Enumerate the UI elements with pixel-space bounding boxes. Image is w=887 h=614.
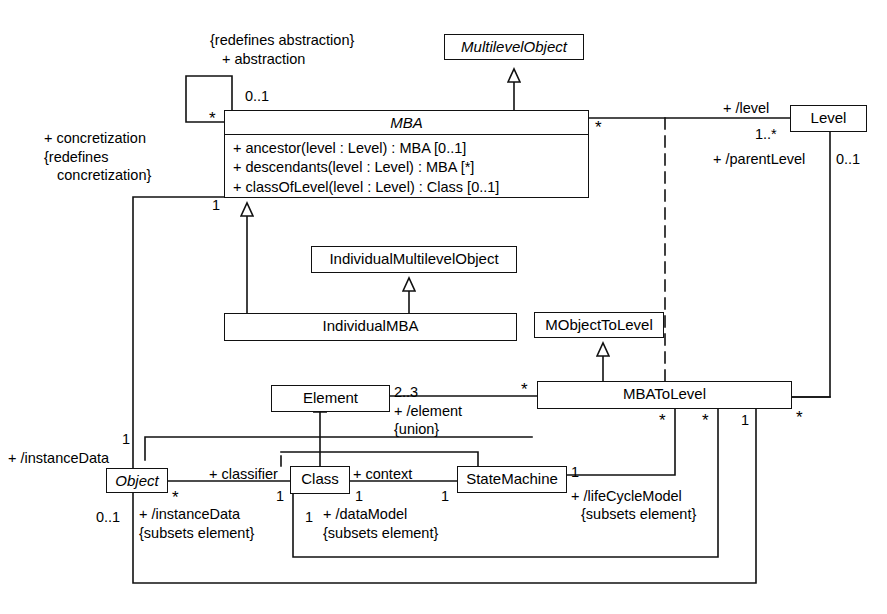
edge-label-instancedata-mult-top: 1 bbox=[122, 431, 130, 449]
class-box-mbatolevel[interactable]: MBAToLevel bbox=[537, 381, 792, 409]
edge-label-datamodel-mult: 1 bbox=[305, 509, 313, 527]
class-name-individualmultilevelobject: IndividualMultilevelObject bbox=[312, 247, 516, 270]
class-box-mba[interactable]: MBA + ancestor(level : Level) : MBA [0..… bbox=[224, 110, 589, 198]
edge-label-concretization-role: + concretization bbox=[44, 130, 146, 148]
edge-mba-object-instancedata bbox=[133, 197, 224, 468]
edge-level-parentlevel bbox=[792, 132, 830, 397]
edge-label-mbatolevel-left-star: * bbox=[521, 381, 528, 398]
operation-descendants: + descendants(level : Level) : MBA [*] bbox=[233, 158, 582, 177]
edge-label-lifecycle-role: + /lifeCycleModel bbox=[571, 488, 682, 506]
edge-label-classifier-mult-right: 1 bbox=[276, 488, 284, 506]
edge-label-element-mult: 2..3 bbox=[394, 384, 418, 402]
diagram-edges bbox=[0, 0, 887, 614]
edge-label-element-union: {union} bbox=[394, 421, 439, 439]
edge-label-context-role: + context bbox=[353, 466, 412, 484]
edge-object-top-route bbox=[145, 437, 532, 460]
class-box-individualmultilevelobject[interactable]: IndividualMultilevelObject bbox=[311, 246, 517, 273]
operation-ancestor: + ancestor(level : Level) : MBA [0..1] bbox=[233, 139, 582, 158]
edge-label-abstraction-mult: 0..1 bbox=[245, 88, 269, 106]
edge-label-classifier-role: + classifier bbox=[209, 466, 278, 484]
class-name-multilevelobject: MultilevelObject bbox=[445, 35, 583, 58]
edge-label-redefines-concret-1: {redefines bbox=[44, 149, 109, 167]
edge-label-instancedata-role-bot: + /instanceData bbox=[139, 506, 240, 524]
class-name-object: Object bbox=[107, 469, 167, 492]
edge-label-mbatolevel-drop-star2: * bbox=[702, 412, 709, 429]
edge-label-mbatolevel-drop-star1: * bbox=[659, 412, 666, 429]
edge-statemachine-top-route bbox=[281, 452, 478, 466]
class-box-level[interactable]: Level bbox=[790, 105, 867, 132]
edge-label-context-mult-left: 1 bbox=[355, 488, 363, 506]
edge-label-parentlevel-mult: 0..1 bbox=[836, 151, 860, 169]
edge-label-abstraction-role: + abstraction bbox=[222, 51, 305, 69]
class-name-statemachine: StateMachine bbox=[458, 467, 566, 490]
edge-label-redefines-abstraction: {redefines abstraction} bbox=[210, 32, 354, 50]
class-box-object[interactable]: Object bbox=[106, 468, 168, 493]
class-name-mobjecttolevel: MObjectToLevel bbox=[535, 313, 663, 336]
edge-label-level-mult: 1..* bbox=[755, 126, 777, 144]
uml-class-diagram: MultilevelObject MBA + ancestor(level : … bbox=[0, 0, 887, 614]
edge-label-selfassoc-star: * bbox=[209, 110, 216, 127]
edge-label-lifecycle-mult: 1 bbox=[571, 464, 579, 482]
edge-label-mba-bottom-mult: 1 bbox=[212, 197, 220, 215]
edge-label-instancedata-mult-bot: 0..1 bbox=[96, 509, 120, 527]
operation-classoflevel: + classOfLevel(level : Level) : Class [0… bbox=[233, 178, 582, 197]
edge-label-lifecycle-subsets: {subsets element} bbox=[581, 506, 696, 524]
class-name-element: Element bbox=[272, 386, 389, 409]
class-box-class[interactable]: Class bbox=[290, 466, 350, 494]
edge-label-context-mult-right: 1 bbox=[441, 488, 449, 506]
class-box-mobjecttolevel[interactable]: MObjectToLevel bbox=[534, 312, 664, 338]
edge-label-level-role: + /level bbox=[723, 100, 769, 118]
edge-label-mbatolevel-right-star: * bbox=[796, 409, 803, 426]
edge-label-element-role: + /element bbox=[394, 403, 462, 421]
class-name-level: Level bbox=[791, 106, 866, 129]
class-operations-mba: + ancestor(level : Level) : MBA [0..1] +… bbox=[225, 134, 588, 200]
class-name-mba: MBA bbox=[225, 111, 588, 134]
edge-label-datamodel-role: + /dataModel bbox=[323, 506, 407, 524]
class-box-individualmba[interactable]: IndividualMBA bbox=[224, 313, 517, 341]
edge-label-instancedata-subsets: {subsets element} bbox=[139, 525, 254, 543]
edge-label-mbatolevel-drop-one: 1 bbox=[741, 412, 749, 430]
edge-label-instancedata-role-top: + /instanceData bbox=[8, 450, 109, 468]
edge-label-redefines-concret-2: concretization} bbox=[57, 167, 151, 185]
edge-label-parentlevel-role: + /parentLevel bbox=[713, 151, 805, 169]
class-box-multilevelobject[interactable]: MultilevelObject bbox=[444, 34, 584, 60]
class-box-element[interactable]: Element bbox=[271, 385, 390, 412]
edge-label-datamodel-subsets: {subsets element} bbox=[323, 525, 438, 543]
class-name-class: Class bbox=[291, 467, 349, 490]
class-box-statemachine[interactable]: StateMachine bbox=[457, 466, 567, 493]
class-name-mbatolevel: MBAToLevel bbox=[538, 382, 791, 405]
edge-label-classifier-mult-left: * bbox=[172, 489, 179, 506]
class-name-individualmba: IndividualMBA bbox=[225, 314, 516, 337]
edge-label-mba-right-star: * bbox=[595, 119, 602, 136]
